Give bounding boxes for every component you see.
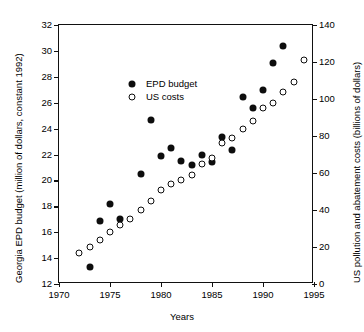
data-point — [260, 105, 267, 112]
y-axis-right-tick — [312, 173, 317, 174]
data-point — [280, 43, 287, 50]
data-point — [137, 207, 144, 214]
data-point — [270, 99, 277, 106]
data-point — [147, 117, 154, 124]
x-axis-tick — [161, 282, 162, 287]
data-point — [86, 264, 93, 271]
y-axis-left-tick-label: 16 — [41, 227, 52, 237]
chart-legend: EPD budget US costs — [125, 77, 197, 103]
y-axis-right-tick-label: 140 — [319, 20, 335, 30]
y-axis-left-tick-label: 28 — [41, 72, 52, 82]
data-point — [178, 157, 185, 164]
y-axis-left-tick-label: 24 — [41, 124, 52, 134]
data-point — [229, 146, 236, 153]
y-axis-left-tick-label: 12 — [41, 279, 52, 289]
y-axis-right-tick — [312, 136, 317, 137]
legend-item-label: EPD budget — [146, 79, 197, 89]
legend-item-label: US costs — [146, 92, 184, 102]
y-axis-left-tick-label: 20 — [41, 176, 52, 186]
data-point — [270, 59, 277, 66]
data-point — [76, 249, 83, 256]
x-axis-tick — [110, 282, 111, 287]
x-axis-tick — [212, 282, 213, 287]
data-point — [86, 244, 93, 251]
data-point — [168, 181, 175, 188]
y-axis-left-tick-label: 30 — [41, 46, 52, 56]
y-axis-right-tick-label: 100 — [319, 94, 335, 104]
y-axis-right-tick-label: 80 — [319, 131, 330, 141]
x-axis-tick-label: 1980 — [150, 290, 171, 300]
data-point — [249, 118, 256, 125]
y-axis-right-tick-label: 40 — [319, 205, 330, 215]
data-point — [178, 177, 185, 184]
y-axis-right-tick-label: 60 — [319, 168, 330, 178]
data-point — [188, 161, 195, 168]
y-axis-left-tick-label: 14 — [41, 253, 52, 263]
data-point — [147, 197, 154, 204]
x-axis-tick-label: 1990 — [252, 290, 273, 300]
data-point — [280, 88, 287, 95]
data-point — [127, 216, 134, 223]
plot-area: 1214161820222426283032 02040608010012014… — [58, 24, 313, 283]
data-point — [96, 218, 103, 225]
x-axis-title: Years — [0, 311, 364, 322]
data-point — [198, 160, 205, 167]
data-point — [219, 140, 226, 147]
x-axis-tick-label: 1985 — [201, 290, 222, 300]
data-point — [137, 170, 144, 177]
data-point — [168, 145, 175, 152]
data-point — [158, 153, 165, 160]
x-axis-tick — [263, 282, 264, 287]
y-axis-right-tick — [312, 247, 317, 248]
open-circle-icon — [125, 90, 139, 103]
y-axis-right-tick-label: 120 — [319, 57, 335, 67]
y-axis-left-title: Georgia EPD budget (million of dollars, … — [14, 53, 24, 283]
data-points-layer — [59, 25, 312, 282]
legend-item: US costs — [125, 90, 197, 103]
data-point — [260, 87, 267, 94]
data-point — [229, 134, 236, 141]
data-point — [107, 229, 114, 236]
data-point — [188, 171, 195, 178]
data-point — [239, 125, 246, 132]
y-axis-right-tick — [312, 25, 317, 26]
y-axis-right-tick — [312, 210, 317, 211]
filled-circle-icon — [125, 77, 139, 90]
data-point — [117, 221, 124, 228]
data-point — [239, 93, 246, 100]
x-axis-tick-label: 1970 — [48, 290, 69, 300]
y-axis-right-tick — [312, 99, 317, 100]
legend-item: EPD budget — [125, 77, 197, 90]
y-axis-left-tick-label: 26 — [41, 98, 52, 108]
x-axis-tick-label: 1975 — [99, 290, 120, 300]
data-point — [290, 79, 297, 86]
data-point — [198, 152, 205, 159]
y-axis-left-tick-label: 18 — [41, 202, 52, 212]
data-point — [249, 104, 256, 111]
y-axis-right-tick-label: 0 — [319, 279, 324, 289]
y-axis-right-tick — [312, 62, 317, 63]
data-point — [300, 57, 307, 64]
data-point — [158, 186, 165, 193]
y-axis-right-tick-label: 20 — [319, 242, 330, 252]
y-axis-left-tick-label: 22 — [41, 150, 52, 160]
x-axis-tick — [314, 282, 315, 287]
y-axis-right-title: US pollution and abatement costs (billio… — [352, 62, 362, 283]
data-point — [209, 155, 216, 162]
x-axis-tick-label: 1995 — [303, 290, 324, 300]
data-point — [107, 200, 114, 207]
y-axis-left-tick-label: 32 — [41, 20, 52, 30]
chart-figure: Georgia EPD budget (million of dollars, … — [0, 0, 364, 332]
x-axis-tick — [59, 282, 60, 287]
data-point — [96, 236, 103, 243]
